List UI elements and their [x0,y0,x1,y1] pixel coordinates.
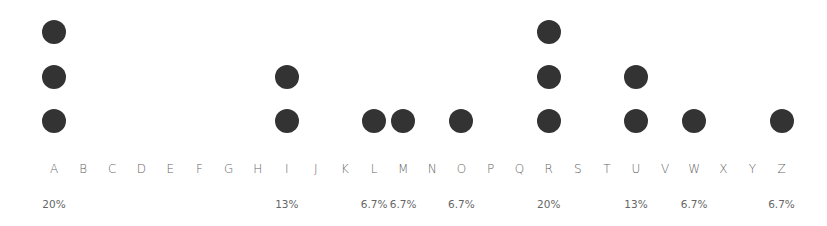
percent-label: 13% [611,198,661,210]
data-dot [770,109,794,133]
category-label: F [190,162,210,176]
data-dot [362,109,386,133]
data-dot [42,65,66,89]
category-label: D [131,162,151,176]
category-label: Q [510,162,530,176]
data-dot [42,20,66,44]
category-label: K [335,162,355,176]
category-label: X [713,162,733,176]
data-dot [682,109,706,133]
category-label: B [73,162,93,176]
data-dot [275,65,299,89]
dot-plot-chart: A20%BCDEFGHI13%JKL6.7%M6.7%NO6.7%PQR20%S… [0,0,827,226]
percent-label: 20% [29,198,79,210]
percent-label: 6.7% [669,198,719,210]
data-dot [391,109,415,133]
category-label: Y [742,162,762,176]
percent-label: 13% [262,198,312,210]
percent-label: 6.7% [378,198,428,210]
category-label: W [684,162,704,176]
percent-label: 6.7% [436,198,486,210]
percent-label: 6.7% [757,198,807,210]
category-label: J [306,162,326,176]
category-label: A [44,162,64,176]
category-label: N [422,162,442,176]
category-label: R [539,162,559,176]
category-label: H [248,162,268,176]
percent-label: 20% [524,198,574,210]
category-label: E [160,162,180,176]
category-label: G [219,162,239,176]
category-label: P [481,162,501,176]
category-label: M [393,162,413,176]
category-label: S [568,162,588,176]
category-label: O [451,162,471,176]
data-dot [42,109,66,133]
category-label: Z [772,162,792,176]
category-label: U [626,162,646,176]
data-dot [624,109,648,133]
data-dot [449,109,473,133]
category-label: L [364,162,384,176]
category-label: I [277,162,297,176]
data-dot [537,109,561,133]
data-dot [537,65,561,89]
data-dot [624,65,648,89]
category-label: V [655,162,675,176]
category-label: C [102,162,122,176]
data-dot [537,20,561,44]
category-label: T [597,162,617,176]
data-dot [275,109,299,133]
